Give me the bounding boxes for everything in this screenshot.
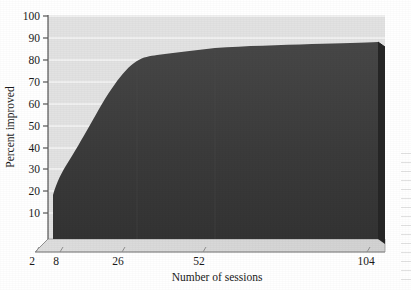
area-depth-face-right: [378, 42, 385, 244]
y-axis-ticks: [43, 16, 48, 213]
y-tick-label-100: 100: [23, 10, 41, 22]
y-tick-label-20: 20: [29, 185, 41, 197]
y-tick-label-90: 90: [29, 32, 41, 44]
x-axis-tick-labels: 2 8 26 52 104: [29, 255, 375, 267]
page-margin-bleed: [401, 150, 411, 280]
x-tick-label-52: 52: [193, 255, 205, 267]
y-axis-title: Percent improved: [4, 86, 17, 168]
y-tick-label-30: 30: [29, 163, 41, 175]
y-tick-label-60: 60: [29, 98, 41, 110]
floor-slab: [35, 239, 385, 252]
area-chart: 100 90 80 70 60 50 40 30 20 10 Percent i…: [0, 0, 411, 290]
y-axis-tick-labels: 100 90 80 70 60 50 40 30 20 10: [23, 10, 41, 219]
x-tick-label-104: 104: [357, 255, 375, 267]
y-tick-label-40: 40: [29, 142, 41, 154]
x-tick-label-2: 2: [29, 255, 35, 267]
y-tick-label-70: 70: [29, 76, 41, 88]
y-tick-label-80: 80: [29, 54, 41, 66]
figure-container: 100 90 80 70 60 50 40 30 20 10 Percent i…: [0, 0, 411, 290]
y-tick-label-50: 50: [29, 120, 41, 132]
x-tick-label-26: 26: [112, 255, 124, 267]
y-tick-label-10: 10: [29, 207, 41, 219]
x-tick-label-8: 8: [53, 255, 59, 267]
x-axis-title: Number of sessions: [172, 271, 263, 283]
